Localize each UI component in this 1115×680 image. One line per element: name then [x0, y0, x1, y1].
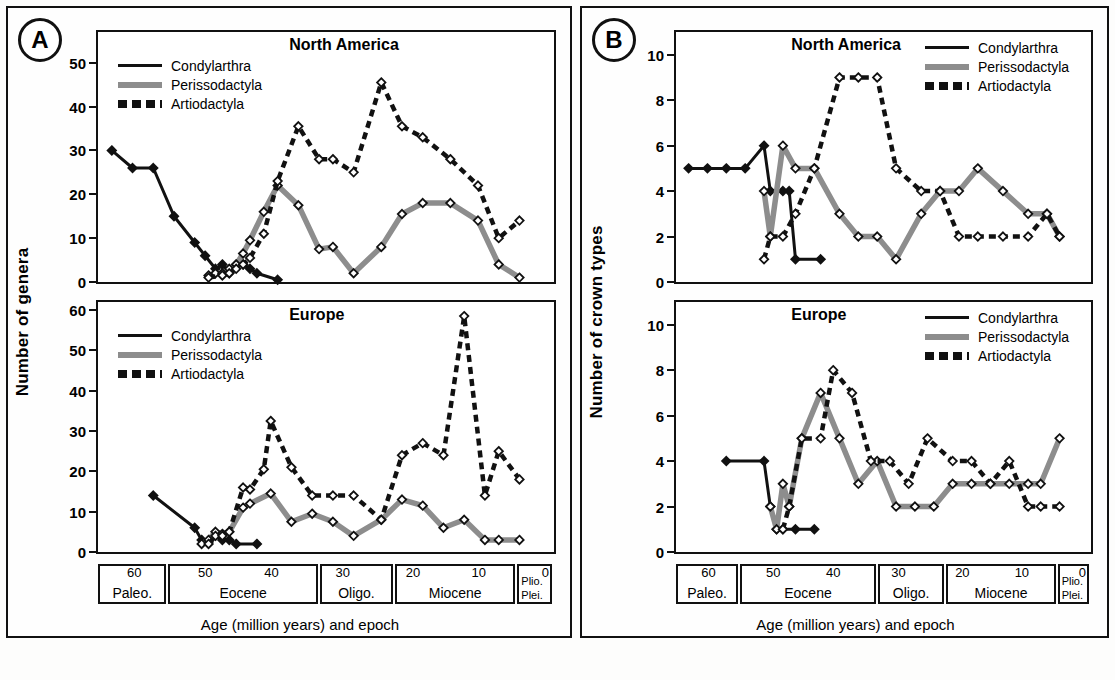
A-europe-ytick-mark — [89, 430, 96, 432]
epoch-tick-number: 20 — [406, 566, 420, 580]
epoch-box-miocene: Miocene2010 — [946, 564, 1055, 604]
epoch-label: Paleo. — [678, 586, 736, 601]
B-europe-series-perissodactyla — [766, 389, 1064, 534]
epoch-tick-number: 60 — [701, 566, 715, 580]
epoch-label: Paleo. — [100, 586, 164, 601]
B-north-america-ytick-mark — [667, 236, 674, 238]
panel-a-y-axis-label: Number of genera — [8, 8, 38, 636]
epoch-tick-number: 50 — [198, 566, 212, 580]
data-point-marker — [722, 164, 730, 172]
A-north-america-ytick-label: 30 — [48, 142, 86, 159]
A-north-america-series-condylarthra — [108, 146, 282, 284]
B-europe-ytick-label: 8 — [626, 362, 664, 379]
epoch-tick-number: 60 — [127, 566, 141, 580]
A-europe-ytick-label: 30 — [48, 423, 86, 440]
A-europe-ytick-label: 40 — [48, 382, 86, 399]
A-europe-ytick-mark — [89, 390, 96, 392]
A-europe-ytick-mark — [89, 309, 96, 311]
B-europe-ytick-label: 4 — [626, 453, 664, 470]
epoch-axis-a: Paleo.60Eocene5040Oligo.30Miocene2010Pli… — [98, 564, 554, 604]
panel-a: A Number of genera 01020304050North Amer… — [6, 6, 572, 638]
epoch-tick-number: 30 — [891, 566, 905, 580]
epoch-label: Plei. — [1060, 589, 1087, 601]
A-europe-ytick-mark — [89, 470, 96, 472]
data-point-marker — [816, 255, 824, 263]
panel-b-y-axis-label: Number of crown types — [582, 8, 612, 636]
A-europe-ytick-mark — [89, 349, 96, 351]
B-north-america-ytick-label: 8 — [626, 92, 664, 109]
epoch-tick-number: 0 — [1079, 566, 1086, 580]
x-axis-caption-b: Age (million years) and epoch — [612, 616, 1099, 633]
epoch-tick-number: 10 — [1015, 566, 1029, 580]
A-north-america-ytick-label: 0 — [48, 274, 86, 291]
A-north-america-ytick-label: 20 — [48, 186, 86, 203]
A-north-america-ytick-mark — [89, 281, 96, 283]
data-point-marker — [760, 457, 768, 465]
B-north-america-ytick-mark — [667, 190, 674, 192]
data-point-marker — [999, 232, 1007, 240]
epoch-box-oligo: Oligo.30 — [878, 564, 945, 604]
B-north-america-series-condylarthra — [684, 141, 824, 263]
epoch-tick-number: 0 — [542, 566, 549, 580]
epoch-box-eocene: Eocene5040 — [168, 564, 317, 604]
A-north-america-ytick-mark — [89, 237, 96, 239]
epoch-box-paleo: Paleo.60 — [676, 564, 738, 604]
data-point-marker — [1055, 502, 1063, 510]
B-north-america-ytick-mark — [667, 54, 674, 56]
panel-b-badge: B — [592, 18, 636, 62]
epoch-label: Miocene — [948, 586, 1053, 601]
epoch-label: Oligo. — [322, 586, 391, 601]
B-north-america-ytick-mark — [667, 145, 674, 147]
epoch-tick-number: 30 — [336, 566, 350, 580]
A-north-america-ytick-mark — [89, 62, 96, 64]
A-north-america-ytick-mark — [89, 106, 96, 108]
epoch-label: Eocene — [170, 586, 315, 601]
A-north-america-ytick-mark — [89, 149, 96, 151]
data-point-marker — [349, 491, 357, 499]
data-point-marker — [722, 457, 730, 465]
B-north-america-ytick-label: 2 — [626, 228, 664, 245]
epoch-tick-number: 10 — [471, 566, 485, 580]
epoch-label: Oligo. — [880, 586, 943, 601]
B-europe-ytick-label: 10 — [626, 316, 664, 333]
A-north-america-series-artiodactyla — [204, 78, 523, 282]
panel-b-charts: 0246810North AmericaCondylarthraPerissod… — [612, 8, 1099, 636]
A-europe-series-layer — [98, 302, 554, 552]
data-point-marker — [495, 536, 503, 544]
data-point-marker — [515, 216, 523, 224]
B-north-america-ytick-label: 6 — [626, 137, 664, 154]
A-europe-ytick-mark — [89, 551, 96, 553]
epoch-box-miocene: Miocene2010 — [395, 564, 515, 604]
A-europe-ytick-label: 20 — [48, 463, 86, 480]
data-point-marker — [149, 164, 157, 172]
data-point-marker — [791, 525, 799, 533]
A-north-america-series-layer — [98, 32, 554, 282]
epoch-tick-number: 40 — [264, 566, 278, 580]
data-point-marker — [684, 164, 692, 172]
data-point-marker — [810, 525, 818, 533]
A-europe-ytick-label: 0 — [48, 544, 86, 561]
epoch-tick-number: 50 — [766, 566, 780, 580]
figure-root: A Number of genera 01020304050North Amer… — [0, 0, 1115, 680]
B-europe-series-condylarthra — [722, 457, 818, 534]
B-europe-ytick-mark — [667, 369, 674, 371]
data-point-marker — [1036, 502, 1044, 510]
panel-a-badge: A — [18, 18, 62, 62]
B-europe-ytick-mark — [667, 460, 674, 462]
data-point-marker — [1024, 480, 1032, 488]
B-north-america-ytick-mark — [667, 99, 674, 101]
A-north-america-ytick-mark — [89, 193, 96, 195]
B-europe-ytick-mark — [667, 415, 674, 417]
data-point-marker — [816, 434, 824, 442]
epoch-tick-number: 20 — [955, 566, 969, 580]
A-north-america-ytick-label: 10 — [48, 230, 86, 247]
B-europe-ytick-mark — [667, 324, 674, 326]
epoch-box-paleo: Paleo.60 — [98, 564, 166, 604]
epoch-axis-b: Paleo.60Eocene5040Oligo.30Miocene2010Pli… — [676, 564, 1091, 604]
x-axis-caption-a: Age (million years) and epoch — [38, 616, 562, 633]
A-europe-ytick-label: 10 — [48, 503, 86, 520]
epoch-box-plio: Plio.Plei.0 — [1058, 564, 1089, 604]
data-point-marker — [854, 73, 862, 81]
data-point-marker — [1024, 502, 1032, 510]
data-point-marker — [329, 491, 337, 499]
